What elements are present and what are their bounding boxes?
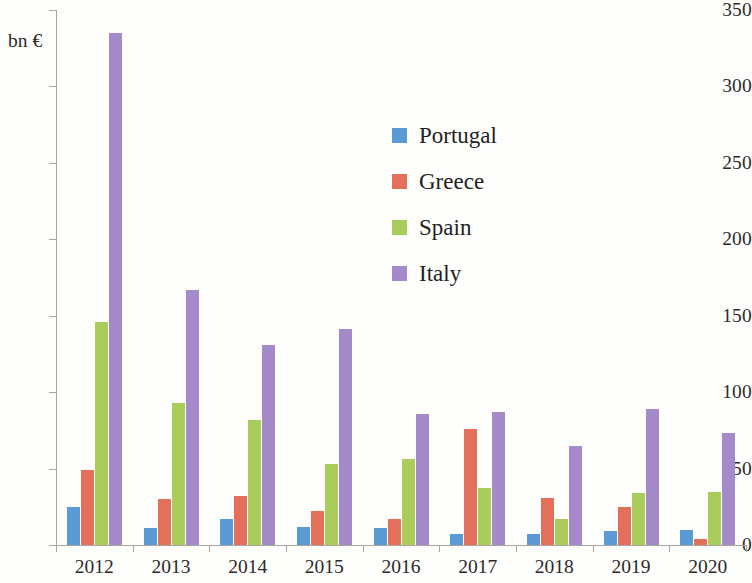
x-axis-tick-label-2015: 2015 [305, 556, 344, 578]
legend-swatch-icon [392, 174, 407, 189]
bar-italy-2019 [646, 409, 659, 545]
x-axis-line [56, 545, 747, 546]
bar-italy-2018 [569, 446, 582, 545]
x-axis-tick-label-2018: 2018 [535, 556, 574, 578]
bar-portugal-2019 [604, 531, 617, 545]
x-axis-tick-label-2017: 2017 [458, 556, 497, 578]
x-axis-tick [133, 545, 134, 552]
bar-portugal-2013 [144, 528, 157, 545]
legend-item-greece[interactable]: Greece [392, 158, 497, 204]
legend-item-label: Greece [419, 170, 484, 193]
x-axis-tick-label-2020: 2020 [688, 556, 727, 578]
x-axis-tick-label-2012: 2012 [75, 556, 114, 578]
bar-portugal-2017 [450, 534, 463, 545]
legend-item-spain[interactable]: Spain [392, 204, 497, 250]
x-axis-tick-label-2013: 2013 [152, 556, 191, 578]
bar-spain-2018 [555, 519, 568, 545]
bar-portugal-2020 [680, 530, 693, 545]
legend-swatch-icon [392, 266, 407, 281]
bar-spain-2013 [172, 403, 185, 545]
bar-spain-2014 [248, 420, 261, 545]
bar-italy-2016 [416, 414, 429, 545]
bar-spain-2012 [95, 322, 108, 545]
x-axis-tick [363, 545, 364, 552]
bar-italy-2017 [492, 412, 505, 545]
y-axis-unit-label: bn € [8, 30, 42, 52]
legend-item-portugal[interactable]: Portugal [392, 112, 497, 158]
bar-chart: bn € 050100150200250300350 2012201320142… [0, 0, 752, 583]
bar-spain-2017 [478, 488, 491, 545]
bar-spain-2020 [708, 492, 721, 546]
legend-swatch-icon [392, 128, 407, 143]
bar-italy-2020 [722, 433, 735, 545]
bar-italy-2014 [262, 345, 275, 545]
bar-italy-2012 [109, 33, 122, 545]
bar-spain-2015 [325, 464, 338, 545]
x-axis-tick-label-2016: 2016 [382, 556, 421, 578]
bar-greece-2014 [234, 496, 247, 545]
bar-greece-2012 [81, 470, 94, 545]
x-axis-tick [516, 545, 517, 552]
bar-greece-2019 [618, 507, 631, 545]
bar-spain-2019 [632, 493, 645, 545]
x-axis-tick-label-2014: 2014 [228, 556, 267, 578]
legend-swatch-icon [392, 220, 407, 235]
x-axis-tick [286, 545, 287, 552]
x-axis-tick [209, 545, 210, 552]
bar-greece-2016 [388, 519, 401, 545]
bar-greece-2015 [311, 511, 324, 545]
legend-item-label: Italy [419, 262, 461, 285]
bar-greece-2013 [158, 499, 171, 545]
legend-item-label: Portugal [419, 124, 497, 147]
bar-portugal-2014 [220, 519, 233, 545]
legend-item-label: Spain [419, 216, 471, 239]
bar-portugal-2012 [67, 507, 80, 545]
bar-portugal-2018 [527, 534, 540, 545]
x-axis-tick [669, 545, 670, 552]
legend-item-italy[interactable]: Italy [392, 250, 497, 296]
bar-italy-2013 [186, 290, 199, 545]
x-axis-tick [56, 545, 57, 552]
x-axis-tick [746, 545, 747, 552]
chart-legend: PortugalGreeceSpainItaly [392, 112, 497, 296]
bar-spain-2016 [402, 459, 415, 545]
x-axis-tick [593, 545, 594, 552]
bar-portugal-2016 [374, 528, 387, 545]
x-axis-tick [439, 545, 440, 552]
bar-italy-2015 [339, 329, 352, 545]
bar-greece-2018 [541, 498, 554, 545]
x-axis-tick-label-2019: 2019 [612, 556, 651, 578]
bar-portugal-2015 [297, 527, 310, 545]
bar-greece-2017 [464, 429, 477, 545]
